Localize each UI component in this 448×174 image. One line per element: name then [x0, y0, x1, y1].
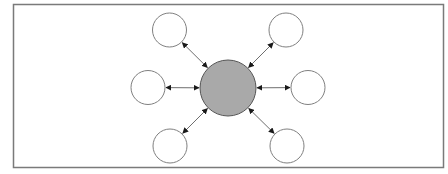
node-top-left — [153, 13, 187, 47]
node-right — [291, 71, 325, 105]
node-left — [131, 71, 165, 105]
hub-spoke-diagram — [0, 0, 448, 174]
node-bottom-left — [153, 129, 187, 163]
node-top-right — [269, 13, 303, 47]
hub-node — [200, 60, 256, 116]
node-bottom-right — [270, 129, 304, 163]
